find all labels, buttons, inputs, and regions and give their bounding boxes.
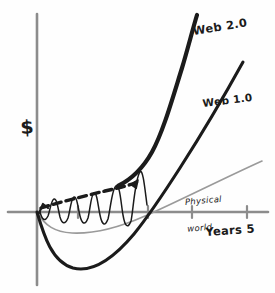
envelope-arrow-end-icon — [130, 180, 138, 189]
y-axis-label: $ — [20, 117, 35, 138]
chart-canvas: $ Years 5 Web 2.0 Web 1.0 Physical world — [0, 0, 275, 293]
series-label-physical-world-line2: world — [187, 221, 225, 233]
series-physical-world-curve — [37, 161, 262, 233]
chart-svg — [0, 0, 275, 293]
series-label-physical-world-line1: Physical — [185, 195, 223, 207]
series-web20-envelope-dashed — [41, 182, 137, 208]
series-label-physical-world: Physical world — [183, 177, 226, 251]
